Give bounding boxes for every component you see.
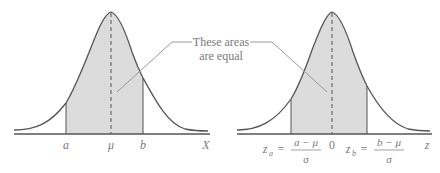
left-tick-a: a: [63, 138, 69, 152]
svg-text:a: a: [269, 149, 273, 158]
right-tick-zero: 0: [329, 138, 335, 152]
right-normal-plot: z a = a − μ σ 0 z b = b − μ σ z: [237, 12, 432, 165]
svg-text:σ: σ: [303, 153, 309, 165]
svg-text:z: z: [345, 142, 351, 156]
callout-line-2: are equal: [199, 49, 243, 63]
svg-text:=: =: [278, 142, 285, 156]
zb-formula: z b = b − μ σ: [345, 136, 404, 165]
equal-areas-callout: These areas are equal: [117, 35, 327, 92]
left-shaded-area: [66, 12, 143, 134]
svg-text:σ: σ: [386, 153, 392, 165]
left-normal-plot: a μ b X: [14, 12, 210, 152]
svg-text:a − μ: a − μ: [294, 136, 318, 148]
left-tick-mu: μ: [107, 138, 114, 152]
za-formula: z a = a − μ σ: [262, 136, 321, 165]
svg-text:=: =: [361, 142, 368, 156]
svg-text:b: b: [352, 149, 356, 158]
normal-standardization-diagram: a μ b X z a = a − μ σ 0 z b = b − μ σ: [0, 0, 440, 173]
right-shaded-area: [291, 12, 367, 134]
svg-text:z: z: [262, 142, 268, 156]
callout-line-1: These areas: [193, 35, 250, 49]
svg-text:b − μ: b − μ: [377, 136, 401, 148]
right-axis-label: z: [424, 138, 430, 152]
left-axis-label: X: [201, 138, 210, 152]
left-tick-b: b: [140, 138, 146, 152]
